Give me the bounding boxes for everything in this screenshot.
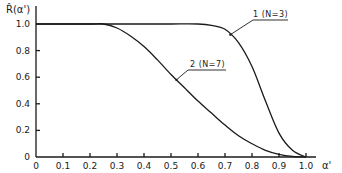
curves xyxy=(36,24,306,157)
y-tick-label: 0.6 xyxy=(16,72,31,82)
x-tick-label: 0.9 xyxy=(272,161,287,171)
x-tick-label: 0.1 xyxy=(56,161,70,171)
x-tick-label: 0 xyxy=(33,161,39,171)
y-tick-label: 0.4 xyxy=(16,99,31,109)
annotation-leader-line xyxy=(176,70,226,80)
y-tick-label: 0.8 xyxy=(16,46,31,56)
x-tick-label: 1.0 xyxy=(299,161,314,171)
x-tick-label: 0.4 xyxy=(137,161,152,171)
annotation-leader-line xyxy=(230,20,288,35)
series-curve-2 xyxy=(36,24,306,157)
y-tick-label: 0.2 xyxy=(16,125,30,135)
axes xyxy=(36,6,316,157)
x-tick-label: 0.6 xyxy=(191,161,206,171)
x-axis-label: α' xyxy=(322,160,331,171)
annotation-arrow-tip xyxy=(229,33,231,35)
x-axis-ticks: 00.10.20.30.40.50.60.70.80.91.0 xyxy=(33,153,313,171)
series-annotation-label: 1 (N=3) xyxy=(253,10,288,19)
annotation-arrow-tip xyxy=(175,79,177,81)
x-tick-label: 0.3 xyxy=(110,161,124,171)
x-tick-label: 0.8 xyxy=(245,161,260,171)
x-tick-label: 0.7 xyxy=(218,161,232,171)
y-axis-label: R̂(α') xyxy=(6,3,30,15)
series-curve-1 xyxy=(36,24,306,157)
x-tick-label: 0.5 xyxy=(164,161,178,171)
x-tick-label: 0.2 xyxy=(83,161,97,171)
reliability-chart: 00.10.20.30.40.50.60.70.80.91.0 00.20.40… xyxy=(0,0,342,173)
y-tick-label: 1.0 xyxy=(16,19,31,29)
series-annotation-label: 2 (N=7) xyxy=(190,60,225,69)
annotations: 1 (N=3)2 (N=7) xyxy=(175,10,288,81)
y-tick-label: 0 xyxy=(24,152,30,162)
